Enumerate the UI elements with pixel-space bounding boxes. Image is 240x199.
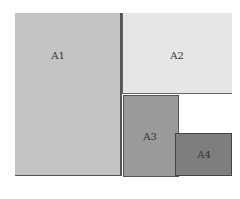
region-a1-label: A1 — [51, 50, 65, 61]
region-a1 — [15, 13, 122, 176]
region-a2-label: A2 — [170, 50, 184, 61]
region-a4-label: A4 — [197, 149, 211, 160]
region-a3-label: A3 — [143, 131, 157, 142]
